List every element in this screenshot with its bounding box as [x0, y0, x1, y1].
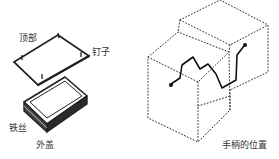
handle-wire — [171, 46, 244, 88]
handle-end-right-icon — [243, 43, 247, 47]
label-nail: 钉子 — [92, 48, 110, 57]
label-cover: 外盖 — [36, 141, 54, 150]
label-top: 顶部 — [19, 34, 37, 43]
label-wire: 铁丝 — [9, 124, 27, 133]
box-cover — [24, 77, 87, 132]
handle-end-left-icon — [169, 83, 173, 87]
label-handle-position: 手柄的位置 — [222, 141, 267, 150]
dotted-block — [148, 0, 268, 142]
diagram-canvas — [0, 0, 279, 159]
